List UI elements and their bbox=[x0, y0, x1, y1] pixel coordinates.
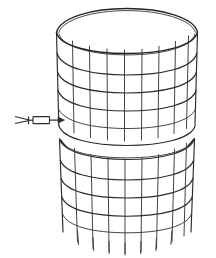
upper-top-rim bbox=[57, 9, 198, 55]
upper-horizontal-rings bbox=[57, 53, 197, 129]
leader-arrow bbox=[15, 117, 65, 125]
upper-section bbox=[57, 9, 198, 146]
figure-root: Two-tier cylindrical wire mesh cage Line… bbox=[0, 0, 216, 258]
lower-section bbox=[60, 139, 195, 256]
lower-vertical-wires bbox=[60, 139, 195, 254]
wire-cage-illustration: Two-tier cylindrical wire mesh cage Line… bbox=[0, 0, 216, 258]
